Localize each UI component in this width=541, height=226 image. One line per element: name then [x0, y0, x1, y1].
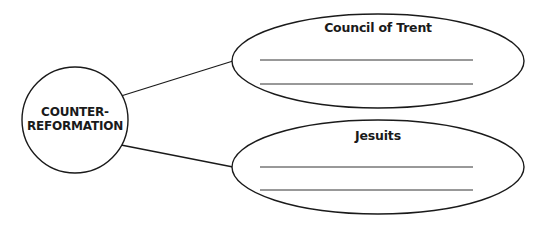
center-label-line2: REFORMATION [22, 119, 128, 133]
connector-council-of-trent [121, 61, 233, 96]
center-label-line1: COUNTER- [22, 105, 128, 119]
node-title-council-of-trent: Council of Trent [278, 20, 478, 35]
center-label: COUNTER- REFORMATION [22, 105, 128, 133]
connector-jesuits [121, 145, 233, 167]
node-title-jesuits: Jesuits [278, 128, 478, 143]
